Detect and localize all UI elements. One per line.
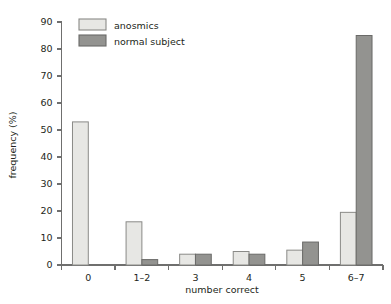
chart-legend: anosmics normal subject — [79, 19, 185, 47]
y-tick-label: 80 — [40, 43, 52, 54]
legend-swatch-anosmics — [79, 19, 106, 30]
y-tick-label: 60 — [40, 97, 52, 108]
bar — [195, 254, 211, 265]
bar — [249, 254, 265, 265]
bar — [72, 122, 88, 265]
x-axis-title: number correct — [185, 284, 259, 295]
x-tick-label: 6–7 — [348, 272, 365, 283]
bar — [340, 212, 356, 265]
bar — [180, 254, 196, 265]
x-tick-label: 1–2 — [133, 272, 150, 283]
y-tick-label: 50 — [40, 124, 52, 135]
bar — [287, 250, 303, 265]
y-tick-label: 90 — [40, 16, 52, 27]
bar — [356, 36, 372, 266]
y-tick-label: 70 — [40, 70, 52, 81]
legend-label-normal-subject: normal subject — [114, 36, 185, 47]
legend-label-anosmics: anosmics — [114, 20, 159, 31]
y-axis-title: frequency (%) — [7, 111, 18, 178]
y-axis-tick-labels: 0102030405060708090 — [40, 16, 52, 270]
y-tick-label: 20 — [40, 205, 52, 216]
x-tick-label: 0 — [85, 272, 91, 283]
x-tick-label: 3 — [192, 272, 198, 283]
chart-canvas: 0102030405060708090 01–23456–7 frequency… — [0, 0, 391, 304]
x-axis-tick-labels: 01–23456–7 — [85, 272, 364, 283]
x-tick-label: 5 — [300, 272, 306, 283]
y-tick-label: 40 — [40, 151, 52, 162]
bars-group — [72, 36, 372, 266]
bar — [303, 242, 319, 265]
y-tick-label: 0 — [46, 259, 52, 270]
bar — [142, 260, 158, 265]
x-tick-label: 4 — [246, 272, 252, 283]
legend-swatch-normal-subject — [79, 35, 106, 46]
bar-chart: 0102030405060708090 01–23456–7 frequency… — [0, 0, 391, 304]
y-tick-label: 10 — [40, 232, 52, 243]
bar — [126, 222, 142, 265]
y-axis-ticks — [57, 22, 62, 265]
x-axis-ticks — [62, 265, 384, 270]
y-tick-label: 30 — [40, 178, 52, 189]
bar — [233, 252, 249, 266]
